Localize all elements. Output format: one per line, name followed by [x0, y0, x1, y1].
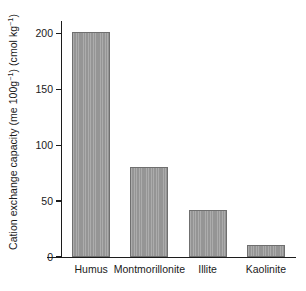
y-axis-tick-label: 0: [47, 250, 53, 265]
bar-kaolinite: [247, 245, 285, 257]
y-axis-tick-label: 100: [35, 138, 53, 153]
plot-area: [62, 22, 295, 257]
y-axis-title: Cation exchange capacity (me 100g−1) (cm…: [2, 2, 24, 262]
y-axis-title-sup-2: −1: [6, 18, 15, 26]
bar-illite: [189, 210, 227, 257]
y-axis-title-lead: Cation exchange capacity (me 100g: [7, 81, 19, 250]
y-axis-title-sup-1: −1: [6, 72, 15, 80]
x-axis-label-illite: Illite: [198, 262, 217, 276]
x-axis-label-kaolinite: Kaolinite: [246, 262, 286, 276]
x-axis-label-humus: Humus: [74, 262, 107, 276]
x-axis-label-montmorillonite: Montmorillonite: [114, 262, 185, 276]
y-axis-title-tail: ): [7, 14, 19, 18]
bar-chart-figure: Cation exchange capacity (me 100g−1) (cm…: [0, 0, 306, 291]
y-axis-tick-label: 150: [35, 82, 53, 97]
y-axis-tick-label: 200: [35, 26, 53, 41]
bar-montmorillonite: [130, 167, 168, 257]
bar-humus: [72, 32, 110, 257]
y-axis-title-mid: ) (cmol kg: [7, 26, 19, 73]
y-axis-tick-label: 50: [41, 194, 53, 209]
x-axis-line: [47, 257, 296, 258]
